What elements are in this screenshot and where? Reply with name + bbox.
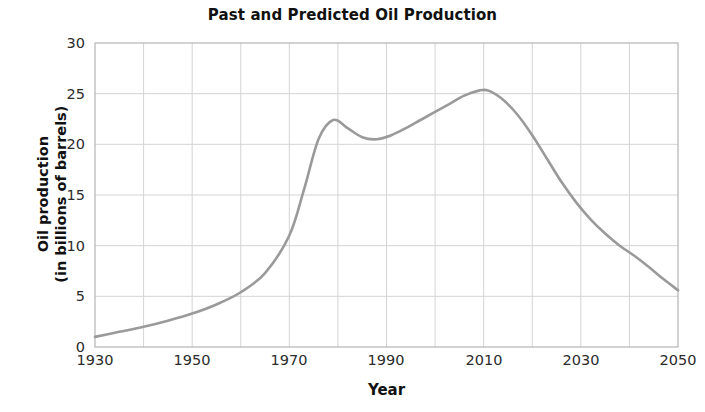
plot-area bbox=[0, 0, 705, 412]
chart-figure: Past and Predicted Oil Production Oil pr… bbox=[0, 0, 705, 412]
